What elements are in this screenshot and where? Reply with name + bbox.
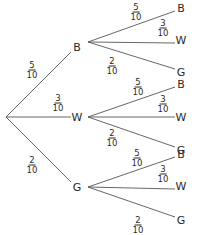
probability-g-g: 210 (133, 216, 144, 235)
leaf-g-g: G (177, 215, 186, 226)
node-w: W (72, 112, 83, 123)
branch-line-w-g (88, 117, 175, 147)
leaf-g-b: B (177, 149, 185, 160)
denominator: 10 (27, 71, 38, 80)
denominator: 10 (132, 159, 143, 168)
denominator: 10 (158, 29, 169, 38)
denominator: 10 (107, 67, 118, 76)
probability-tree-lines (0, 0, 201, 234)
probability-g-w: 310 (158, 165, 169, 184)
denominator: 10 (27, 166, 38, 175)
branch-line-b-w (88, 42, 175, 43)
probability-first-b: 510 (27, 61, 38, 80)
denominator: 10 (158, 175, 169, 184)
denominator: 10 (131, 13, 142, 22)
node-g: G (73, 182, 82, 193)
node-b: B (73, 42, 81, 53)
probability-b-b: 510 (131, 3, 142, 22)
probability-b-w: 310 (158, 19, 169, 38)
denominator: 10 (107, 139, 118, 148)
branch-line-b-g (88, 42, 175, 69)
denominator: 10 (133, 226, 144, 235)
leaf-b-b: B (177, 3, 185, 14)
leaf-b-w: W (176, 35, 187, 46)
leaf-g-w: W (176, 181, 187, 192)
leaf-w-b: B (177, 79, 185, 90)
probability-w-b: 510 (133, 78, 144, 97)
probability-w-g: 210 (107, 129, 118, 148)
branch-line-g-g (88, 187, 175, 217)
leaf-b-g: G (177, 67, 186, 78)
probability-first-w: 310 (53, 94, 64, 113)
leaf-w-w: W (176, 112, 187, 123)
denominator: 10 (133, 88, 144, 97)
denominator: 10 (53, 104, 64, 113)
branch-line-first-g (6, 117, 71, 182)
probability-g-b: 510 (132, 149, 143, 168)
branch-line-g-w (88, 187, 175, 189)
denominator: 10 (158, 105, 169, 114)
probability-w-w: 310 (158, 95, 169, 114)
probability-first-g: 210 (27, 156, 38, 175)
probability-b-g: 210 (107, 57, 118, 76)
